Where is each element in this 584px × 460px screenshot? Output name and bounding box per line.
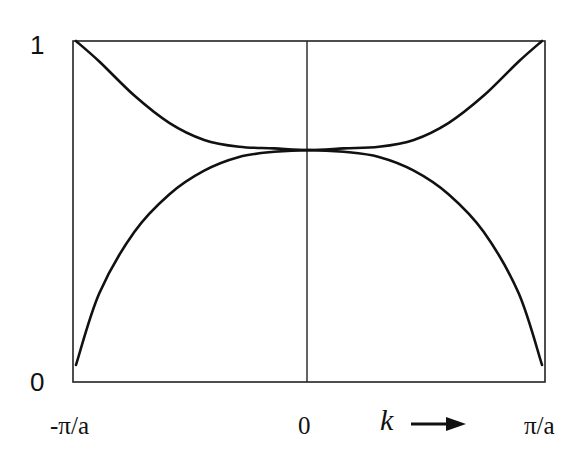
x-tick-zero: 0 bbox=[298, 413, 311, 438]
upper-band-curve bbox=[76, 41, 542, 150]
plot-frame bbox=[73, 41, 545, 382]
k-arrow-icon bbox=[411, 417, 466, 431]
lower-band-curve bbox=[76, 150, 542, 365]
y-tick-0: 0 bbox=[30, 369, 44, 395]
x-tick-minus-pi-over-a: -π/a bbox=[50, 413, 89, 438]
y-tick-1: 1 bbox=[30, 32, 44, 58]
band-structure-plot bbox=[0, 0, 584, 460]
x-tick-pi-over-a: π/a bbox=[524, 413, 555, 438]
x-axis-label-k: k bbox=[380, 405, 393, 435]
